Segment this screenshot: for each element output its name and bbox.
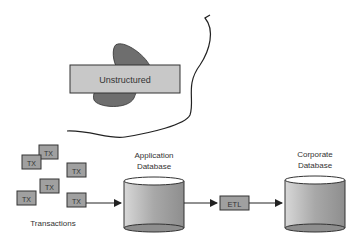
appdb-label-line2: Database [137,162,172,171]
transaction-box: TX [67,163,86,177]
transaction-box: TX [40,179,59,193]
svg-text:TX: TX [27,160,36,167]
diagram-canvas: Unstructured TX TX TX TX TX TX Transacti… [0,0,361,241]
svg-text:TX: TX [72,198,81,205]
etl-box: ETL [220,196,249,210]
corpdb-label-line2: Database [298,161,333,170]
application-database-cylinder [124,177,184,232]
transaction-box: TX [67,193,86,207]
svg-text:TX: TX [44,150,53,157]
transaction-box: TX [22,155,41,169]
unstructured-box: Unstructured [70,65,180,93]
corporate-database-cylinder [285,176,345,232]
transaction-box: TX [39,145,58,159]
transactions-label: Transactions [30,219,76,228]
svg-text:TX: TX [45,184,54,191]
transaction-box: TX [17,191,36,205]
unstructured-label: Unstructured [99,75,151,85]
corpdb-label-line1: Corporate [297,150,333,159]
appdb-label-line1: Application [134,151,173,160]
svg-text:ETL: ETL [228,200,242,209]
svg-text:TX: TX [72,168,81,175]
svg-text:TX: TX [22,196,31,203]
